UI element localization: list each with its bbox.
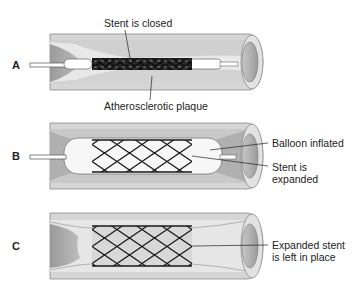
label-atherosclerotic-plaque: Atherosclerotic plaque (104, 100, 208, 112)
stent-diagram: A B C Stent is closed Atherosclerotic pl… (0, 0, 363, 286)
panel-b-vessel (30, 123, 268, 189)
label-expanded-stent-line1: Expanded stent (272, 239, 345, 251)
label-stent-expanded-line2: expanded (272, 173, 318, 185)
label-stent-closed: Stent is closed (104, 17, 172, 29)
panel-c-vessel (50, 213, 268, 279)
panel-a-letter: A (12, 59, 20, 71)
panel-a-vessel (30, 30, 263, 100)
label-stent-expanded-line1: Stent is (272, 161, 307, 173)
panel-b-letter: B (12, 150, 20, 162)
panel-c-letter: C (12, 240, 20, 252)
label-expanded-stent-line2: is left in place (272, 251, 336, 263)
label-balloon-inflated: Balloon inflated (272, 137, 344, 149)
